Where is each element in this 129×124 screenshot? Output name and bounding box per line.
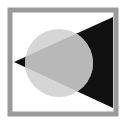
framed-graphic xyxy=(0,0,129,124)
circle-triangle-icon xyxy=(0,0,129,124)
